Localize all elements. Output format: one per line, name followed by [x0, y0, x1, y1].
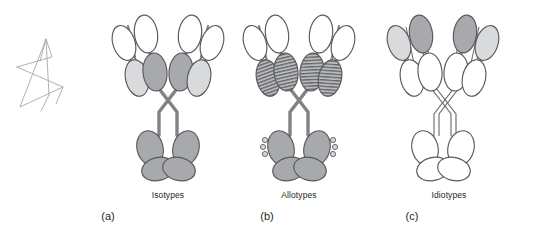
allotype-marker-left-2 [260, 144, 265, 149]
panel-a-caption: (a) [101, 210, 114, 222]
antibody-variation-figure: Isotypes (a) [0, 0, 543, 232]
allotype-marker-right-2 [332, 144, 337, 149]
panel-c-caption: (c) [406, 210, 419, 222]
allotype-marker-left-1 [262, 137, 267, 142]
panel-b-caption: (b) [260, 210, 273, 222]
panel-b-title: Allotypes [281, 190, 316, 200]
allotype-marker-right-1 [330, 137, 335, 142]
panel-c-title: Idiotypes [432, 190, 467, 200]
allotype-marker-left-3 [262, 151, 267, 156]
panel-a-title: Isotypes [152, 190, 184, 200]
allotype-marker-right-3 [330, 151, 335, 156]
